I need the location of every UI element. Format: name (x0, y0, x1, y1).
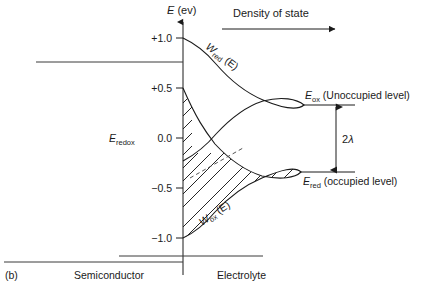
reorganization-energy-group: 2λ (336, 107, 354, 170)
tick-label-1: +1.0 (151, 32, 172, 44)
tick-label-4: −0.5 (151, 182, 172, 194)
axis-ticks: +1.0 +0.5 0.0 −0.5 −1.0 (151, 32, 183, 244)
density-of-state-header: Density of state (222, 7, 335, 29)
tick-label-5: −1.0 (151, 232, 172, 244)
w-ox-label: Wox (E) (196, 198, 233, 229)
density-of-state-label: Density of state (233, 7, 309, 19)
e-ox-label: Eox (Unoccupied level) (305, 89, 410, 104)
electrolyte-label: Electrolyte (217, 269, 266, 281)
e-redox-label: Eredox (109, 132, 135, 147)
axis-title-unit: (ev) (174, 4, 196, 16)
region-labels: Semiconductor Electrolyte (74, 269, 266, 281)
w-red-curve-group: Wred (E) (183, 38, 304, 161)
semiconductor-band-edges (4, 62, 263, 262)
semiconductor-label: Semiconductor (74, 269, 145, 281)
e-red-label: Ered (occupied level) (303, 175, 397, 190)
e-red-level-group: Ered (occupied level) (301, 172, 397, 190)
axis-title: E (ev) (167, 4, 196, 16)
tick-label-3: 0.0 (157, 132, 172, 144)
tick-label-2: +0.5 (151, 82, 172, 94)
redox-density-of-states-diagram: Density of state E (ev) +1.0 +0.5 0.0 −0… (0, 0, 423, 288)
figure-caption-label: (b) (5, 269, 18, 281)
w-red-label: Wred (E) (202, 40, 241, 74)
two-lambda-label: 2λ (342, 133, 354, 145)
e-ox-level-group: Eox (Unoccupied level) (303, 89, 410, 105)
w-red-curve (183, 38, 304, 161)
